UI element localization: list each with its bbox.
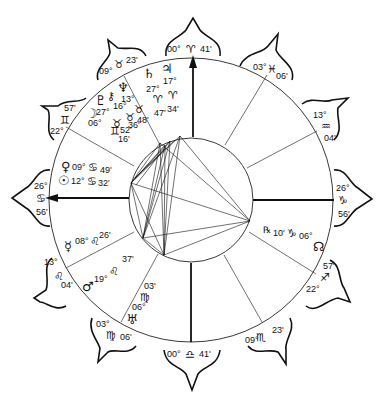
mc-min: 41' bbox=[200, 44, 212, 54]
sagittarius-min: 57' bbox=[323, 261, 335, 271]
chiron-deg: 16° bbox=[113, 101, 127, 111]
taurus-icon: ♉ bbox=[114, 58, 124, 71]
jupiter-min: 34' bbox=[167, 104, 179, 114]
gemini-deg: 22° bbox=[50, 126, 64, 136]
mars-icon: ♂ bbox=[82, 279, 94, 294]
node-retrograde-icon: ℞ bbox=[263, 225, 271, 235]
pisces-min: 06' bbox=[276, 71, 288, 81]
aries-icon: ♈ bbox=[186, 43, 196, 56]
saturn-sign-icon: ♈ bbox=[153, 93, 163, 106]
moon-deg: 06° bbox=[88, 118, 102, 128]
scorpio-min: 23' bbox=[272, 325, 284, 335]
ic-min: 41' bbox=[199, 349, 211, 359]
cusp-labels: 00° ♈ 41' 03° ♓ 06' 13° ♒ 04' 26° ♑ 56' … bbox=[34, 43, 350, 361]
sun-icon: ☉ bbox=[58, 173, 70, 188]
uranus-icon: ♅ bbox=[126, 312, 138, 327]
venus-icon: ♀ bbox=[61, 159, 71, 174]
cancer-deg: 26° bbox=[34, 181, 48, 191]
virgo-deg: 03° bbox=[96, 319, 110, 329]
outer-petals bbox=[12, 18, 372, 390]
saturn-icon: ♄ bbox=[143, 66, 155, 81]
leo-min: 04' bbox=[61, 280, 73, 290]
uranus-min: 03' bbox=[144, 281, 156, 291]
neptune-icon: ♆ bbox=[117, 80, 129, 95]
leo-deg: 13° bbox=[44, 257, 58, 267]
node-deg: 06° bbox=[299, 231, 313, 241]
venus-deg: 09° bbox=[72, 162, 86, 172]
cancer-icon: ♋ bbox=[36, 192, 46, 205]
sun-deg: 12° bbox=[71, 176, 85, 186]
mercury-deg: 08° bbox=[75, 236, 89, 246]
scorpio-icon: ♏ bbox=[256, 331, 266, 344]
moon-min: 16' bbox=[118, 134, 130, 144]
aquarius-min: 04' bbox=[324, 133, 336, 143]
mars-min: 37' bbox=[122, 254, 134, 264]
cancer-min: 56' bbox=[36, 207, 48, 217]
saturn-min: 47' bbox=[154, 108, 166, 118]
asc-axis bbox=[45, 194, 129, 202]
libra-icon: ♎ bbox=[185, 348, 195, 361]
north-node-icon: ☊ bbox=[313, 239, 325, 254]
sun-sign-icon: ♋ bbox=[87, 175, 97, 188]
natal-chart: 00° ♈ 41' 03° ♓ 06' 13° ♒ 04' 26° ♑ 56' … bbox=[0, 0, 385, 398]
gemini-min: 57' bbox=[64, 103, 76, 113]
venus-min: 49' bbox=[100, 165, 112, 175]
pluto-deg: 27° bbox=[96, 107, 110, 117]
sun-min: 32' bbox=[98, 178, 110, 188]
ic-deg: 00° bbox=[167, 349, 181, 359]
capricorn-icon: ♑ bbox=[338, 194, 348, 207]
virgo-min: 06' bbox=[120, 332, 132, 342]
node-min: 10' bbox=[273, 228, 285, 238]
uranus-deg: 06° bbox=[132, 302, 146, 312]
mars-deg: 19° bbox=[94, 274, 108, 284]
mercury-icon: ☿ bbox=[64, 239, 72, 254]
mercury-min: 26' bbox=[99, 230, 111, 240]
capricorn-deg: 26° bbox=[336, 183, 350, 193]
capricorn-min: 56' bbox=[338, 209, 350, 219]
taurus-deg: 09° bbox=[99, 66, 113, 76]
venus-sign-icon: ♋ bbox=[88, 161, 98, 174]
mars-sign-icon: ♌ bbox=[109, 265, 119, 278]
mc-axis bbox=[189, 55, 197, 137]
inner-ring bbox=[129, 138, 253, 262]
virgo-icon: ♍ bbox=[106, 329, 116, 342]
sagittarius-deg: 22° bbox=[306, 284, 320, 294]
aquarius-icon: ♒ bbox=[321, 120, 331, 133]
aquarius-deg: 13° bbox=[313, 110, 327, 120]
jupiter-deg: 17° bbox=[163, 76, 177, 86]
sagittarius-icon: ♐ bbox=[320, 271, 330, 284]
mc-deg: 00° bbox=[167, 44, 181, 54]
jupiter-sign-icon: ♈ bbox=[168, 89, 178, 102]
taurus-min: 23' bbox=[126, 55, 138, 65]
pisces-deg: 03° bbox=[253, 62, 267, 72]
node-sign-icon: ♑ bbox=[287, 227, 297, 240]
jupiter-icon: ♃ bbox=[161, 61, 173, 76]
